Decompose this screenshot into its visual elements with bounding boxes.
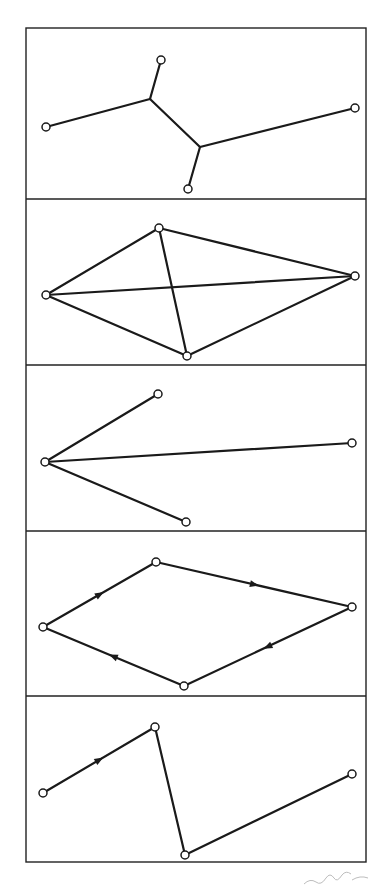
edge — [155, 727, 185, 855]
vertex — [184, 185, 192, 193]
graph-panels — [39, 56, 359, 859]
panel-star — [41, 390, 356, 526]
vertex — [182, 518, 190, 526]
vertex — [348, 603, 356, 611]
edge — [150, 60, 161, 99]
graph-types-figure — [0, 0, 385, 888]
vertex — [157, 56, 165, 64]
vertex — [351, 272, 359, 280]
edge — [185, 774, 352, 855]
vertex — [39, 623, 47, 631]
edge — [45, 462, 186, 522]
arrowhead-icon — [94, 754, 105, 765]
panel-complete-graph — [42, 224, 359, 360]
vertex — [41, 458, 49, 466]
vertex — [152, 558, 160, 566]
panel-directed-path — [39, 723, 356, 859]
vertex — [348, 770, 356, 778]
edge — [200, 108, 355, 147]
arrowhead-icon — [108, 651, 119, 661]
vertex — [351, 104, 359, 112]
edge — [46, 276, 355, 295]
edge — [46, 99, 150, 127]
vertex — [181, 851, 189, 859]
vertex — [348, 439, 356, 447]
panel-tree — [42, 56, 359, 193]
vertex — [155, 224, 163, 232]
edge — [187, 276, 355, 356]
edge — [45, 443, 352, 462]
edge — [159, 228, 187, 356]
edge — [46, 295, 187, 356]
edge — [46, 228, 159, 295]
arrowhead-icon — [262, 642, 273, 652]
arrowhead-icon — [94, 589, 105, 600]
vertex — [183, 352, 191, 360]
vertex — [154, 390, 162, 398]
edge — [150, 99, 200, 147]
edge — [45, 394, 158, 462]
vertex — [39, 789, 47, 797]
vertex — [42, 123, 50, 131]
vertex — [151, 723, 159, 731]
edge — [188, 147, 200, 189]
panel-directed-cycle — [39, 558, 356, 690]
vertex — [180, 682, 188, 690]
vertex — [42, 291, 50, 299]
handwritten-mark — [304, 872, 368, 884]
edge — [159, 228, 355, 276]
